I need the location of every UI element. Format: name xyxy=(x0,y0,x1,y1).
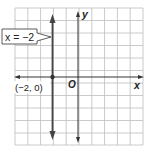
y-axis-label: y xyxy=(81,8,89,20)
coordinate-graph: x = −2 (−2, 0) O x y xyxy=(0,0,146,149)
equation-label: x = −2 xyxy=(5,31,34,43)
point-label: (−2, 0) xyxy=(15,82,43,93)
point-neg2-0 xyxy=(50,75,54,79)
x-axis-label: x xyxy=(133,79,141,91)
equation-callout: x = −2 xyxy=(2,29,51,44)
origin-label: O xyxy=(68,79,76,90)
